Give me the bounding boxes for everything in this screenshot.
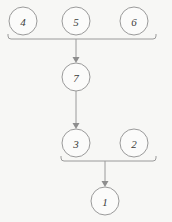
edge-bracket-bottom-to-node-1: [102, 161, 109, 187]
node-1[interactable]: 1: [91, 187, 119, 215]
node-label: 6: [131, 16, 137, 28]
node-6[interactable]: 6: [120, 7, 148, 35]
arrow-head-icon: [102, 181, 109, 187]
node-4[interactable]: 4: [9, 7, 37, 35]
node-5[interactable]: 5: [62, 7, 90, 35]
node-7[interactable]: 7: [62, 63, 90, 91]
node-label: 1: [102, 196, 108, 208]
graph-svg: 4 5 6 7 3 2 1: [0, 0, 172, 222]
node-label: 7: [73, 72, 79, 84]
arrow-head-icon: [73, 123, 80, 129]
edge-node-7-to-node-3: [73, 91, 80, 129]
node-label: 4: [20, 16, 26, 28]
edge-bracket-top-to-node-7: [73, 39, 80, 63]
node-label: 2: [131, 138, 137, 150]
node-3[interactable]: 3: [62, 129, 90, 157]
arrow-head-icon: [73, 57, 80, 63]
node-2[interactable]: 2: [120, 129, 148, 157]
node-label: 5: [73, 16, 79, 28]
node-label: 3: [72, 138, 79, 150]
diagram-canvas: 4 5 6 7 3 2 1: [0, 0, 172, 222]
